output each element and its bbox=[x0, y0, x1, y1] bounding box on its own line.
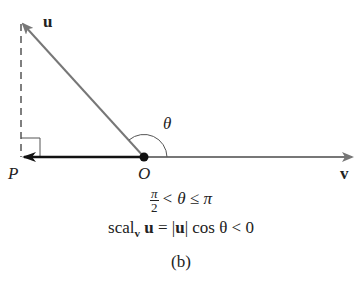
label-O: O bbox=[138, 164, 150, 184]
label-P: P bbox=[8, 164, 18, 184]
scal-text: scal bbox=[108, 218, 134, 237]
scalar-projection-formula: scalv u = |u| cos θ < 0 bbox=[0, 218, 362, 239]
frac-numerator: π bbox=[150, 187, 159, 201]
frac-denominator: 2 bbox=[150, 201, 159, 214]
vector-u bbox=[23, 24, 144, 157]
label-theta: θ bbox=[163, 114, 171, 134]
caption: (b) bbox=[0, 252, 362, 272]
formula-u-norm: u bbox=[175, 218, 184, 237]
scal-subscript: v bbox=[134, 227, 140, 239]
formula-u: u bbox=[144, 218, 153, 237]
condition-text: < θ ≤ π bbox=[162, 189, 212, 208]
right-angle-marker bbox=[21, 138, 40, 157]
label-u: u bbox=[43, 12, 52, 32]
label-v: v bbox=[340, 164, 349, 184]
formula-tail: | cos θ < 0 bbox=[185, 218, 254, 237]
formula-equals: = | bbox=[154, 218, 176, 237]
origin-point bbox=[140, 153, 149, 162]
angle-condition: π2< θ ≤ π bbox=[0, 187, 362, 214]
